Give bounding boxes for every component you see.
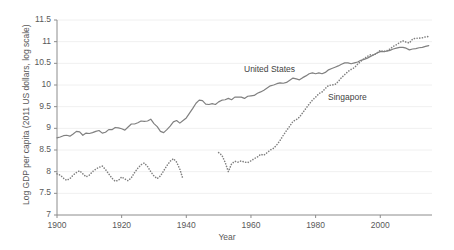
x-tick-label: 1980 [296, 221, 336, 230]
x-tick-label: 1940 [166, 221, 206, 230]
x-tick-label: 1900 [37, 221, 77, 230]
y-tick-label: 9.5 [11, 102, 51, 111]
chart-plot-svg [0, 0, 454, 250]
data-series [57, 36, 429, 181]
gridlines [57, 20, 432, 193]
x-tick-label: 1920 [102, 221, 142, 230]
y-tick-label: 11.5 [11, 15, 51, 24]
y-tick-label: 7.5 [11, 188, 51, 197]
series-line-singapore [57, 159, 183, 182]
y-tick-label: 8 [11, 167, 51, 176]
series-label-united-states: United States [244, 64, 295, 74]
x-axis-title: Year [0, 232, 454, 242]
y-axis-title: Log GDP per capita (2011 US dollars, log… [21, 25, 31, 205]
y-tick-label: 10 [11, 80, 51, 89]
y-tick-label: 10.5 [11, 58, 51, 67]
y-tick-label: 8.5 [11, 145, 51, 154]
x-tick-label: 2000 [360, 221, 400, 230]
axis-lines [57, 20, 432, 215]
series-label-singapore: Singapore [328, 92, 367, 102]
x-tick-label: 1960 [231, 221, 271, 230]
y-tick-label: 9 [11, 123, 51, 132]
chart-container: Log GDP per capita (2011 US dollars, log… [0, 0, 454, 250]
tick-marks [54, 20, 380, 218]
series-line-united-states [57, 46, 429, 138]
y-tick-label: 7 [11, 210, 51, 219]
series-line-singapore [219, 36, 429, 171]
y-tick-label: 11 [11, 37, 51, 46]
